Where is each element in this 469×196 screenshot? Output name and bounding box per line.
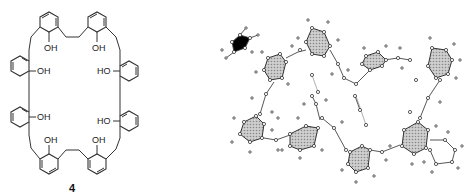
oh-label: OH — [44, 135, 58, 145]
benzene-ring-right-3 — [120, 111, 138, 131]
skeletal-structure-2d: OH OH OH HO OH HO OH OH 4 — [11, 12, 138, 194]
compound-number: 4 — [69, 182, 76, 194]
benzene-ring-bottom-right — [88, 154, 106, 174]
aromatic-ring — [306, 28, 330, 56]
benzene-ring-top-left — [40, 12, 58, 32]
chemical-structure-figure: OH OH OH HO OH HO OH OH 4 — [0, 0, 469, 196]
benzene-ring-bottom-left — [40, 154, 58, 174]
benzene-ring-right-2 — [120, 61, 138, 81]
hydroxyl-groups: OH OH OH HO OH HO OH OH — [29, 32, 120, 154]
ball-and-stick-model-3d — [221, 19, 463, 183]
oh-label: OH — [37, 112, 51, 122]
ethylene-bridges — [29, 27, 120, 159]
benzene-ring-top-right — [88, 12, 106, 32]
benzene-ring-left-2 — [11, 56, 29, 76]
oh-label: OH — [37, 66, 51, 76]
aromatic-ring — [402, 122, 428, 154]
oh-label: OH — [92, 43, 106, 53]
benzene-ring-left-3 — [11, 107, 29, 127]
ho-label: HO — [97, 66, 111, 76]
oh-label: OH — [44, 43, 58, 53]
ho-label: HO — [97, 116, 111, 126]
oh-label: OH — [92, 135, 106, 145]
